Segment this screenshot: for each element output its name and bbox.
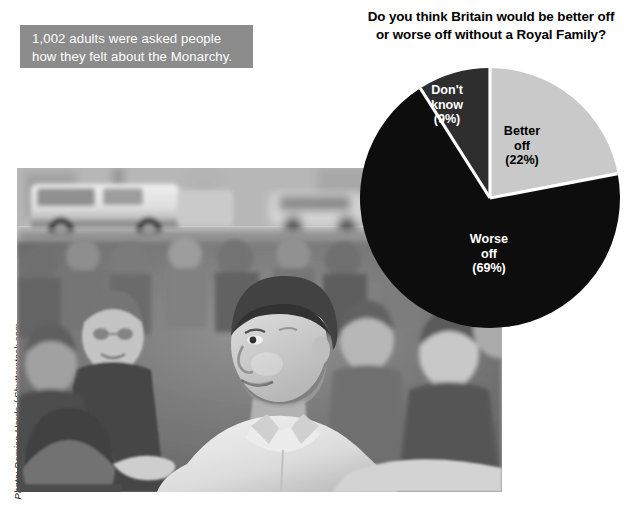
caption-line-1: 1,002 adults were asked people — [32, 30, 241, 48]
chart-title: Do you think Britain would be better off… — [357, 8, 625, 43]
chart-title-line-1: Do you think Britain would be better off — [357, 8, 625, 26]
pie-chart — [357, 65, 623, 331]
infographic-canvas: 1,002 adults were asked people how they … — [0, 0, 628, 507]
pie-chart-svg — [357, 65, 623, 331]
caption-line-2: how they felt about the Monarchy. — [32, 48, 241, 66]
chart-title-line-2: or worse off without a Royal Family? — [357, 26, 625, 44]
caption-box: 1,002 adults were asked people how they … — [20, 25, 253, 68]
